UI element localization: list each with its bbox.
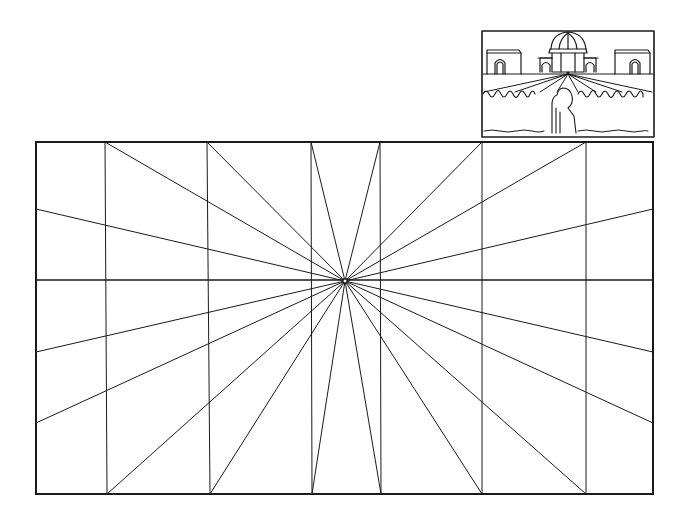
inset-left-gatehouse (487, 50, 521, 74)
perspective-illustration (0, 0, 685, 523)
inset-right-gatehouse (615, 50, 650, 74)
inset-standing-figure (552, 88, 576, 133)
vanishing-point (343, 279, 347, 283)
inset-scene (482, 31, 654, 137)
perspective-grid (36, 142, 653, 494)
inset-ground-line (484, 130, 648, 132)
inset-domed-building (538, 32, 598, 74)
inset-hedge-row (483, 91, 643, 98)
vertical-grid-lines (105, 142, 586, 494)
radial-vanishing-lines (36, 142, 653, 494)
grid-frame (36, 142, 653, 494)
